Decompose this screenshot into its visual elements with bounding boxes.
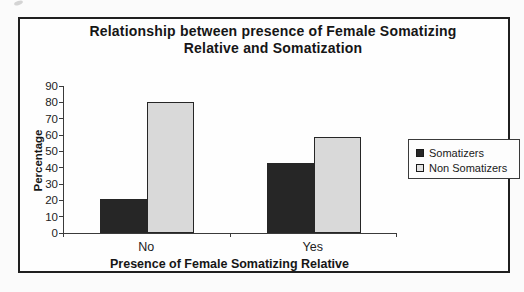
y-tick-label-10: 10: [26, 211, 58, 223]
y-tick-label-70: 70: [26, 113, 58, 125]
x-category-yes: Yes: [283, 240, 343, 254]
scan-artifact: [14, 0, 24, 6]
x-tick-mark: [396, 233, 397, 237]
scanned-figure: Relationship between presence of Female …: [0, 0, 524, 292]
y-tick-label-50: 50: [26, 145, 58, 157]
x-axis-title: Presence of Female Somatizing Relative: [63, 257, 396, 271]
y-tick-label-30: 30: [26, 178, 58, 190]
y-tick-label-40: 40: [26, 162, 58, 174]
legend: Somatizers Non Somatizers: [408, 139, 520, 179]
somatizers-swatch-icon: [416, 149, 424, 157]
non-somatizers-swatch-icon: [416, 164, 424, 172]
y-tick-mark: [59, 135, 63, 136]
y-tick-mark: [59, 151, 63, 152]
x-category-no: No: [116, 240, 176, 254]
y-tick-mark: [59, 167, 63, 168]
chart-title-line-1: Relationship between presence of Female …: [38, 23, 508, 40]
legend-entry-non-somatizers: Non Somatizers: [416, 160, 519, 175]
legend-label-somatizers: Somatizers: [429, 147, 484, 159]
bar-yes-non-somatizers: [314, 137, 361, 233]
y-tick-label-60: 60: [26, 129, 58, 141]
bar-no-somatizers: [100, 199, 147, 233]
plot-area: [63, 86, 397, 234]
legend-entry-somatizers: Somatizers: [416, 145, 519, 160]
x-tick-mark: [63, 233, 64, 237]
chart-title-line-2: Relative and Somatization: [38, 40, 508, 57]
y-tick-mark: [59, 184, 63, 185]
bar-no-non-somatizers: [147, 102, 194, 233]
x-tick-mark: [230, 233, 231, 237]
y-tick-label-90: 90: [26, 80, 58, 92]
legend-label-non-somatizers: Non Somatizers: [429, 162, 507, 174]
y-tick-label-20: 20: [26, 194, 58, 206]
y-tick-label-0: 0: [26, 227, 58, 239]
bar-yes-somatizers: [267, 163, 314, 233]
y-tick-mark: [59, 118, 63, 119]
y-tick-label-80: 80: [26, 96, 58, 108]
y-tick-mark: [59, 216, 63, 217]
y-tick-mark: [59, 102, 63, 103]
y-tick-mark: [59, 86, 63, 87]
y-tick-mark: [59, 200, 63, 201]
chart-title: Relationship between presence of Female …: [38, 23, 508, 56]
